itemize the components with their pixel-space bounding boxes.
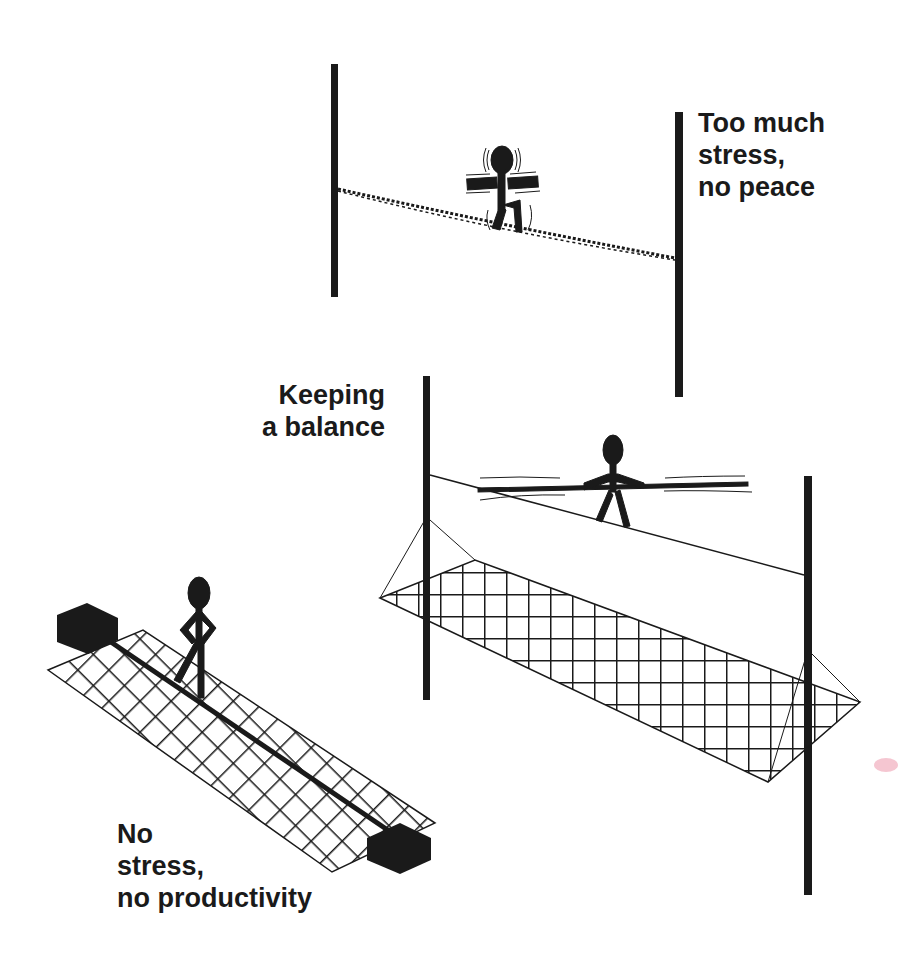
pole-left — [423, 376, 430, 700]
label-keeping-balance: Keeping a balance — [262, 379, 385, 443]
scene-too-much-stress — [331, 64, 683, 397]
stain-mark — [874, 758, 898, 772]
pole-right — [675, 112, 683, 397]
sagging-rope — [338, 189, 675, 258]
stress-balance-illustration: Too much stress, no peace Keeping a bala… — [0, 0, 924, 961]
pole-left — [331, 64, 338, 297]
label-too-much-stress: Too much stress, no peace — [698, 107, 825, 203]
label-no-stress: No stress, no productivity — [117, 818, 312, 914]
scene-keeping-balance — [380, 376, 860, 895]
balancing-figure-icon — [478, 435, 752, 527]
safety-net — [380, 518, 860, 782]
